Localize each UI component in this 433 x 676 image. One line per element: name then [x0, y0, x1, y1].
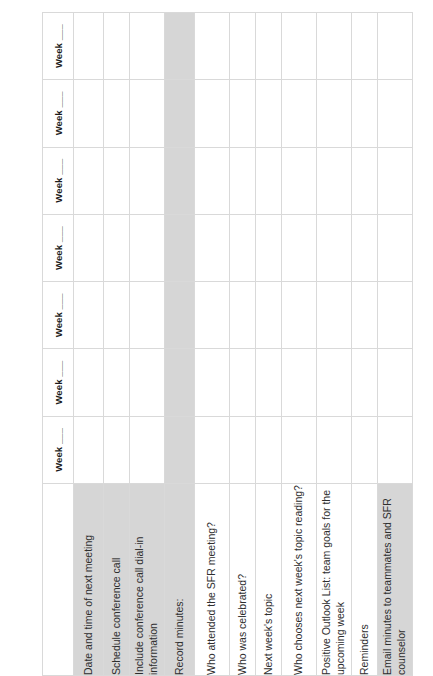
row-label-cell-6: Who was celebrated? — [230, 484, 256, 676]
entry-cell-r11-w4[interactable] — [378, 214, 413, 281]
table-row: Schedule conference call — [104, 12, 130, 675]
header-corner-cell — [43, 484, 74, 676]
entry-cell-r3-w2[interactable] — [130, 349, 165, 416]
entry-cell-r5-w1[interactable] — [195, 416, 230, 483]
entry-cell-r2-w3[interactable] — [104, 282, 130, 349]
entry-cell-r6-w4[interactable] — [230, 214, 256, 281]
table-row: Who chooses next week's topic reading? — [282, 12, 317, 675]
entry-cell-r2-w1[interactable] — [104, 416, 130, 483]
entry-cell-r1-w2[interactable] — [74, 349, 104, 416]
entry-cell-r7-w1[interactable] — [256, 416, 282, 483]
entry-cell-r7-w6[interactable] — [256, 80, 282, 147]
entry-cell-r11-w7[interactable] — [378, 12, 413, 79]
entry-cell-r7-w7[interactable] — [256, 12, 282, 79]
entry-cell-r5-w3[interactable] — [195, 282, 230, 349]
entry-cell-r3-w5[interactable] — [130, 147, 165, 214]
entry-cell-r6-w5[interactable] — [230, 147, 256, 214]
entry-cell-r2-w2[interactable] — [104, 349, 130, 416]
entry-cell-r4-w7[interactable] — [165, 12, 195, 79]
entry-cell-r6-w6[interactable] — [230, 80, 256, 147]
entry-cell-r8-w4[interactable] — [282, 214, 317, 281]
entry-cell-r1-w4[interactable] — [74, 214, 104, 281]
entry-cell-r4-w5[interactable] — [165, 147, 195, 214]
column-header-week-1: Week ___ — [43, 416, 74, 483]
entry-cell-r3-w6[interactable] — [130, 80, 165, 147]
entry-cell-r11-w5[interactable] — [378, 147, 413, 214]
entry-cell-r9-w4[interactable] — [317, 214, 352, 281]
entry-cell-r11-w6[interactable] — [378, 80, 413, 147]
entry-cell-r6-w3[interactable] — [230, 282, 256, 349]
entry-cell-r2-w6[interactable] — [104, 80, 130, 147]
entry-cell-r7-w2[interactable] — [256, 349, 282, 416]
table-row: Date and time of next meeting — [74, 12, 104, 675]
entry-cell-r6-w2[interactable] — [230, 349, 256, 416]
entry-cell-r10-w3[interactable] — [352, 282, 378, 349]
entry-cell-r4-w1[interactable] — [165, 416, 195, 483]
entry-cell-r1-w6[interactable] — [74, 80, 104, 147]
entry-cell-r5-w6[interactable] — [195, 80, 230, 147]
entry-cell-r4-w4[interactable] — [165, 214, 195, 281]
column-header-week-6: Week ___ — [43, 80, 74, 147]
entry-cell-r8-w1[interactable] — [282, 416, 317, 483]
entry-cell-r10-w4[interactable] — [352, 214, 378, 281]
row-label-cell-5: Who attended the SFR meeting? — [195, 484, 230, 676]
entry-cell-r8-w2[interactable] — [282, 349, 317, 416]
entry-cell-r9-w3[interactable] — [317, 282, 352, 349]
entry-cell-r3-w3[interactable] — [130, 282, 165, 349]
entry-cell-r5-w4[interactable] — [195, 214, 230, 281]
entry-cell-r11-w3[interactable] — [378, 282, 413, 349]
entry-cell-r4-w6[interactable] — [165, 80, 195, 147]
column-header-week-4: Week ___ — [43, 214, 74, 281]
row-label-cell-3: Include conference call dial-in informat… — [130, 484, 165, 676]
header-row: Week ___Week ___Week ___Week ___Week ___… — [43, 12, 74, 675]
entry-cell-r10-w7[interactable] — [352, 12, 378, 79]
entry-cell-r6-w1[interactable] — [230, 416, 256, 483]
entry-cell-r9-w7[interactable] — [317, 12, 352, 79]
entry-cell-r10-w2[interactable] — [352, 349, 378, 416]
entry-cell-r2-w5[interactable] — [104, 147, 130, 214]
column-header-week-2: Week ___ — [43, 349, 74, 416]
entry-cell-r6-w7[interactable] — [230, 12, 256, 79]
entry-cell-r11-w2[interactable] — [378, 349, 413, 416]
entry-cell-r9-w6[interactable] — [317, 80, 352, 147]
entry-cell-r1-w3[interactable] — [74, 282, 104, 349]
entry-cell-r2-w4[interactable] — [104, 214, 130, 281]
row-label-cell-10: Reminders — [352, 484, 378, 676]
entry-cell-r8-w5[interactable] — [282, 147, 317, 214]
entry-cell-r9-w2[interactable] — [317, 349, 352, 416]
entry-cell-r10-w6[interactable] — [352, 80, 378, 147]
entry-cell-r5-w7[interactable] — [195, 12, 230, 79]
entry-cell-r8-w6[interactable] — [282, 80, 317, 147]
entry-cell-r2-w7[interactable] — [104, 12, 130, 79]
entry-cell-r11-w1[interactable] — [378, 416, 413, 483]
table-row: Who was celebrated? — [230, 12, 256, 675]
row-label-cell-9: Positive Outlook List: team goals for th… — [317, 484, 352, 676]
entry-cell-r9-w5[interactable] — [317, 147, 352, 214]
entry-cell-r1-w5[interactable] — [74, 147, 104, 214]
entry-cell-r10-w1[interactable] — [352, 416, 378, 483]
entry-cell-r7-w4[interactable] — [256, 214, 282, 281]
entry-cell-r4-w2[interactable] — [165, 349, 195, 416]
entry-cell-r5-w2[interactable] — [195, 349, 230, 416]
entry-cell-r1-w1[interactable] — [74, 416, 104, 483]
entry-cell-r5-w5[interactable] — [195, 147, 230, 214]
table-header: Week ___Week ___Week ___Week ___Week ___… — [43, 12, 74, 675]
row-label-cell-8: Who chooses next week's topic reading? — [282, 484, 317, 676]
rotated-page-stage: Week ___Week ___Week ___Week ___Week ___… — [0, 0, 433, 676]
entry-cell-r7-w3[interactable] — [256, 282, 282, 349]
table-row: Record minutes: — [165, 12, 195, 675]
row-label-cell-2: Schedule conference call — [104, 484, 130, 676]
entry-cell-r3-w7[interactable] — [130, 12, 165, 79]
entry-cell-r10-w5[interactable] — [352, 147, 378, 214]
worksheet-sheet: Week ___Week ___Week ___Week ___Week ___… — [0, 0, 433, 676]
entry-cell-r1-w7[interactable] — [74, 12, 104, 79]
table-row: Email minutes to teammates and SFR couns… — [378, 12, 413, 675]
entry-cell-r3-w4[interactable] — [130, 214, 165, 281]
entry-cell-r8-w7[interactable] — [282, 12, 317, 79]
entry-cell-r4-w3[interactable] — [165, 282, 195, 349]
entry-cell-r7-w5[interactable] — [256, 147, 282, 214]
entry-cell-r9-w1[interactable] — [317, 416, 352, 483]
entry-cell-r3-w1[interactable] — [130, 416, 165, 483]
entry-cell-r8-w3[interactable] — [282, 282, 317, 349]
row-label-cell-4: Record minutes: — [165, 484, 195, 676]
